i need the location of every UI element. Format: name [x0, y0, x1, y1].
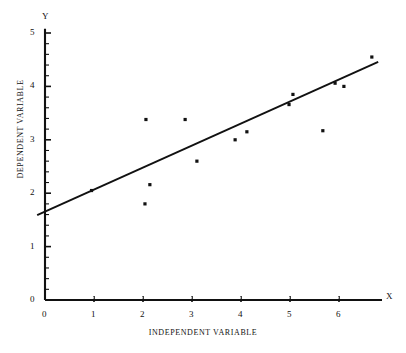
- data-point: [287, 103, 290, 106]
- data-point: [234, 138, 237, 141]
- y-tick-label: 2: [30, 188, 35, 197]
- y-tick-label: 3: [30, 135, 35, 144]
- data-point: [342, 85, 345, 88]
- scatter-plot-figure: DEPENDENT VARIABLE INDEPENDENT VARIABLE …: [0, 0, 406, 353]
- data-point: [143, 202, 146, 205]
- data-point: [370, 55, 373, 58]
- y-axis-letter: Y: [42, 12, 49, 21]
- y-tick-label: 4: [30, 81, 35, 90]
- y-tick-label: 0: [30, 295, 35, 304]
- data-point: [321, 129, 324, 132]
- x-tick-label: 6: [336, 310, 341, 319]
- x-tick-label: 1: [91, 310, 96, 319]
- regression-line: [37, 62, 378, 215]
- data-point: [333, 82, 336, 85]
- data-point: [184, 118, 187, 121]
- data-point: [144, 118, 147, 121]
- x-tick-label: 2: [140, 310, 145, 319]
- x-axis-title: INDEPENDENT VARIABLE: [0, 329, 406, 337]
- x-tick-label: 3: [189, 310, 194, 319]
- y-axis-title: DEPENDENT VARIABLE: [17, 59, 25, 199]
- x-axis-letter: X: [386, 292, 393, 301]
- y-tick-label: 5: [30, 28, 35, 37]
- x-tick-label: 4: [238, 310, 243, 319]
- data-point: [245, 130, 248, 133]
- data-point: [148, 183, 151, 186]
- x-tick-label: 5: [287, 310, 292, 319]
- x-tick-label: 0: [42, 310, 47, 319]
- data-point: [195, 160, 198, 163]
- data-point: [291, 93, 294, 96]
- y-tick-label: 1: [30, 242, 35, 251]
- plot-canvas: [0, 0, 406, 353]
- data-point: [90, 189, 93, 192]
